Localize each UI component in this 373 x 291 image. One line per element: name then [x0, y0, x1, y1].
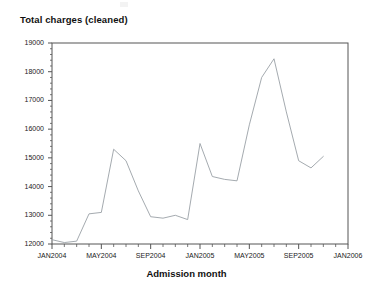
y-tick-label: 13000: [4, 211, 44, 218]
y-tick-label: 16000: [4, 125, 44, 132]
y-tick-label: 17000: [4, 96, 44, 103]
y-tick-label: 12000: [4, 240, 44, 247]
x-tick-label: JAN2004: [29, 252, 75, 259]
x-axis-title: Admission month: [0, 268, 373, 279]
x-tick-label: MAY2004: [78, 252, 124, 259]
y-tick-label: 18000: [4, 68, 44, 75]
y-tick-label: 19000: [4, 39, 44, 46]
x-tick-label: MAY2005: [226, 252, 272, 259]
x-tick-label: JAN2005: [177, 252, 223, 259]
x-tick-label: SEP2004: [128, 252, 174, 259]
y-tick-label: 14000: [4, 183, 44, 190]
data-series-line: [52, 59, 323, 243]
y-tick-label: 15000: [4, 154, 44, 161]
x-tick-label: JAN2006: [325, 252, 371, 259]
y-axis-ticks: [48, 43, 52, 244]
chart-figure: Total charges (cleaned) 1200013000140001…: [0, 0, 373, 291]
x-tick-label: SEP2005: [276, 252, 322, 259]
plot-area: [0, 0, 373, 291]
x-axis-ticks: [52, 244, 348, 249]
